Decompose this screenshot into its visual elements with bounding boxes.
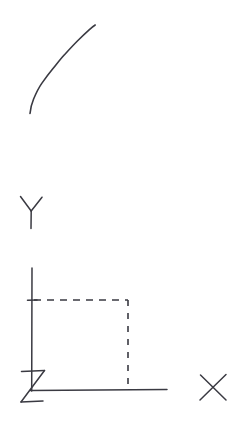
concave-curve	[30, 25, 95, 114]
y-axis-label	[21, 197, 43, 229]
x-axis	[31, 390, 168, 391]
sketch-svg	[0, 0, 237, 431]
x-axis-label	[200, 375, 226, 401]
origin-label	[21, 371, 45, 403]
diagram-canvas: Y X Z	[0, 0, 237, 431]
